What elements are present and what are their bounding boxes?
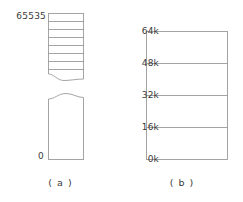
address-label-bottom: 0: [14, 152, 44, 161]
tick-label-16k: 16k: [121, 123, 159, 132]
caption-panel-b: ( b ): [121, 178, 243, 188]
tick-label-48k: 48k: [121, 59, 159, 68]
tick-label-0k: 0k: [121, 155, 159, 164]
tick-label-32k: 32k: [121, 91, 159, 100]
panel-a: 65535 0 ( a ): [0, 0, 121, 202]
tick-label-64k: 64k: [121, 27, 159, 36]
lower-block-break-line: [49, 94, 84, 100]
upper-block-break-line: [49, 74, 84, 81]
caption-panel-a: ( a ): [0, 178, 121, 188]
figure-container: 65535 0 ( a ) 64k 48k 32k 16k 0k ( b ): [0, 0, 243, 202]
panel-a-drawing: [0, 0, 121, 202]
address-label-top: 65535: [2, 12, 46, 21]
panel-b: 64k 48k 32k 16k 0k ( b ): [121, 0, 243, 202]
